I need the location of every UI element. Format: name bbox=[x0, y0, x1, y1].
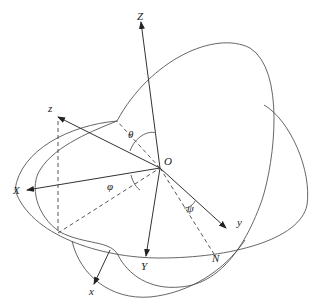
euler-angle-diagram: Z z X O θ φ ψ y N Y x bbox=[0, 0, 316, 306]
axis-X bbox=[27, 168, 160, 190]
label-Y: Y bbox=[141, 260, 149, 272]
ellipse-lower-arc bbox=[72, 240, 245, 297]
axis-x bbox=[94, 250, 110, 284]
label-phi: φ bbox=[107, 180, 113, 192]
label-X: X bbox=[12, 184, 21, 196]
label-x: x bbox=[88, 285, 94, 297]
axis-Z bbox=[141, 22, 160, 168]
angle-arc-theta bbox=[130, 132, 156, 151]
label-y: y bbox=[236, 216, 242, 228]
label-theta: θ bbox=[128, 128, 134, 140]
label-z: z bbox=[47, 102, 53, 114]
label-N: N bbox=[211, 252, 220, 264]
dashed-line-lower-left bbox=[58, 168, 160, 233]
dashed-line-top bbox=[117, 121, 160, 168]
ellipse-reference-plane-lower bbox=[15, 105, 308, 258]
angle-arc-phi bbox=[131, 175, 140, 190]
axis-Y bbox=[146, 168, 160, 256]
label-Z: Z bbox=[137, 10, 144, 22]
label-O: O bbox=[164, 155, 172, 167]
ellipse-reference-plane bbox=[15, 121, 117, 190]
axis-y bbox=[160, 168, 226, 228]
label-psi: ψ bbox=[187, 202, 194, 214]
